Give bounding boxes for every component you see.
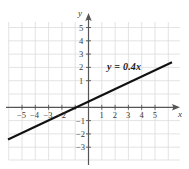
y-tick-label-5: 5 <box>79 24 83 33</box>
x-tick-label-1: 1 <box>100 111 104 120</box>
x-tick-label-4: 4 <box>139 111 143 120</box>
x-tick-label-5: 5 <box>153 111 157 120</box>
y-tick-label-3: 3 <box>79 50 83 59</box>
grid-horizontal-lines <box>9 28 180 161</box>
y-tick-label--3: −3 <box>76 143 85 152</box>
line-series-y-equals-0point4x <box>8 62 172 139</box>
y-tick-label--2: −2 <box>76 130 85 139</box>
y-tick-label-1: 1 <box>79 77 83 86</box>
x-axis-label: x <box>178 110 182 119</box>
graph-figure: −5 −4 −3 −2 1 2 3 4 5 5 4 3 2 1 −1 −2 −3… <box>0 0 189 169</box>
y-axis-label: y <box>78 9 82 18</box>
y-tick-label--1: −1 <box>76 117 85 126</box>
coordinate-plane <box>0 0 189 169</box>
y-tick-label-4: 4 <box>79 37 83 46</box>
x-tick-label-3: 3 <box>126 111 130 120</box>
x-tick-label--4: −4 <box>30 111 39 120</box>
x-tick-label--2: −2 <box>57 111 66 120</box>
x-tick-label--5: −5 <box>17 111 26 120</box>
x-tick-label-2: 2 <box>113 111 117 120</box>
x-tick-label--3: −3 <box>44 111 53 120</box>
equation-annotation: y = 0.4x <box>107 61 141 72</box>
y-axis <box>85 13 91 165</box>
y-tick-label-2: 2 <box>79 63 83 72</box>
